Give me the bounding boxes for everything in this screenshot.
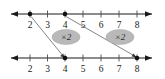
bottom-left-arrowhead [11,55,18,60]
bottom-tick-label-8: 8 [135,64,140,74]
top-tick-label-7: 7 [117,20,122,30]
bottom-number-line: 2 3 4 5 6 7 8 [11,55,152,75]
bottom-tick-label-6: 6 [99,64,104,74]
diagram-canvas: 2 3 4 5 6 7 8 ×2 ×2 [0,0,165,79]
bottom-tick-label-5: 5 [81,64,86,74]
bottom-tick-label-3: 3 [45,64,50,74]
top-tick-label-4: 4 [63,20,68,30]
top-tick-label-3: 3 [45,20,50,30]
top-tick-label-2: 2 [28,20,33,30]
top-left-arrowhead [11,11,18,16]
top-tick-label-8: 8 [135,20,140,30]
bubble-label-left: ×2 [61,32,72,42]
bubble-label-right: ×2 [115,32,126,42]
bubble-multiply-2-right: ×2 [106,30,134,45]
bottom-point-4 [63,56,68,61]
bubble-multiply-2-left: ×2 [52,30,80,45]
bottom-right-arrowhead [145,55,152,60]
top-point-2 [28,12,33,17]
double-number-line-diagram: 2 3 4 5 6 7 8 ×2 ×2 [0,0,165,79]
bottom-tick-label-2: 2 [28,64,33,74]
top-tick-label-6: 6 [99,20,104,30]
bottom-tick-label-7: 7 [117,64,122,74]
top-number-line: 2 3 4 5 6 7 8 [11,11,152,31]
top-point-4 [63,12,68,17]
top-right-arrowhead [145,11,152,16]
bottom-point-8 [135,56,140,61]
bottom-tick-label-4: 4 [63,64,68,74]
